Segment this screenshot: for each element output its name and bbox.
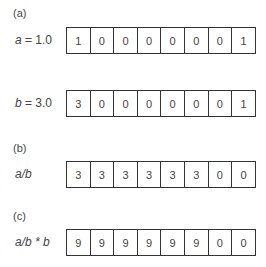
- cell: 3: [161, 162, 185, 187]
- cell: 9: [67, 230, 91, 255]
- cell: 0: [209, 162, 233, 187]
- var-a: a: [15, 33, 22, 47]
- cell: 0: [209, 91, 233, 116]
- register-a: 1 0 0 0 0 0 0 1: [66, 27, 256, 54]
- cell: 0: [138, 28, 162, 53]
- cell: 0: [232, 162, 256, 187]
- cell: 1: [232, 91, 256, 116]
- value-a: = 1.0: [22, 33, 52, 47]
- cell: 3: [114, 162, 138, 187]
- cell: 3: [185, 162, 209, 187]
- cell: 3: [67, 91, 91, 116]
- cell: 0: [91, 28, 115, 53]
- row-label-a-div-b-times-b: a/b * b: [15, 235, 50, 249]
- row-label-b: b = 3.0: [15, 96, 52, 110]
- cell: 0: [185, 28, 209, 53]
- cell: 0: [161, 91, 185, 116]
- cell: 0: [185, 91, 209, 116]
- row-label-a-div-b: a/b: [15, 167, 32, 181]
- expr-a-div-b: a/b: [15, 167, 32, 181]
- cell: 0: [209, 28, 233, 53]
- cell: 3: [138, 162, 162, 187]
- cell: 3: [91, 162, 115, 187]
- cell: 9: [138, 230, 162, 255]
- register-a-div-b: 3 3 3 3 3 3 0 0: [66, 161, 256, 188]
- var-b: b: [15, 96, 22, 110]
- cell: 0: [138, 91, 162, 116]
- value-b: = 3.0: [22, 96, 52, 110]
- part-c-label: (c): [13, 210, 26, 222]
- cell: 9: [91, 230, 115, 255]
- cell: 1: [67, 28, 91, 53]
- cell: 9: [161, 230, 185, 255]
- cell: 1: [232, 28, 256, 53]
- cell: 0: [232, 230, 256, 255]
- row-label-a: a = 1.0: [15, 33, 52, 47]
- cell: 0: [161, 28, 185, 53]
- cell: 0: [114, 28, 138, 53]
- cell: 0: [114, 91, 138, 116]
- expr-a-div-b-times-b: a/b * b: [15, 235, 50, 249]
- cell: 3: [67, 162, 91, 187]
- cell: 0: [91, 91, 115, 116]
- cell: 9: [114, 230, 138, 255]
- part-b-label: (b): [13, 142, 26, 154]
- cell: 0: [209, 230, 233, 255]
- register-a-div-b-times-b: 9 9 9 9 9 9 0 0: [66, 229, 256, 256]
- register-b: 3 0 0 0 0 0 0 1: [66, 90, 256, 117]
- cell: 9: [185, 230, 209, 255]
- part-a-label: (a): [13, 7, 26, 19]
